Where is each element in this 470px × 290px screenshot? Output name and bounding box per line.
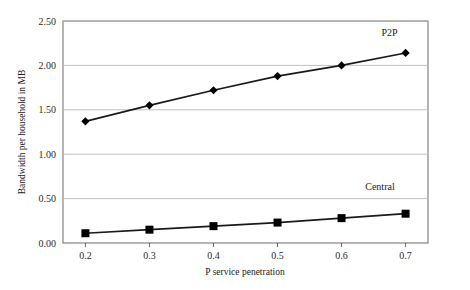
data-point-marker bbox=[338, 214, 346, 222]
data-point-marker bbox=[145, 226, 153, 234]
y-tick-label: 2.50 bbox=[39, 16, 57, 27]
x-tick-label: 0.2 bbox=[79, 250, 92, 261]
y-tick-label: 2.00 bbox=[39, 60, 57, 71]
x-tick-label: 0.3 bbox=[143, 250, 156, 261]
x-tick-label: 0.7 bbox=[399, 250, 412, 261]
data-point-marker bbox=[402, 210, 410, 218]
y-tick-label: 1.00 bbox=[39, 149, 57, 160]
y-axis-title: Bandwidth per household in MB bbox=[17, 70, 27, 195]
y-tick-label: 1.50 bbox=[39, 104, 57, 115]
x-axis-title: P service penetration bbox=[205, 267, 285, 277]
x-tick-label: 0.4 bbox=[207, 250, 220, 261]
y-tick-label: 0.50 bbox=[39, 193, 57, 204]
line-chart: 0.000.501.001.502.002.50 0.20.30.40.50.6… bbox=[0, 0, 470, 290]
x-tick-label: 0.5 bbox=[271, 250, 284, 261]
y-tick-label: 0.00 bbox=[39, 238, 57, 249]
plot-frame bbox=[63, 21, 428, 243]
data-point-marker bbox=[81, 229, 89, 237]
series-label-p2p: P2P bbox=[382, 27, 399, 38]
chart-figure: 0.000.501.001.502.002.50 0.20.30.40.50.6… bbox=[0, 0, 470, 290]
data-point-marker bbox=[274, 219, 282, 227]
data-point-marker bbox=[209, 222, 217, 230]
series-label-central: Central bbox=[365, 181, 395, 192]
x-tick-label: 0.6 bbox=[335, 250, 348, 261]
